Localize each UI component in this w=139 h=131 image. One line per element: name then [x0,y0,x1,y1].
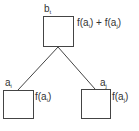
edge-left [18,47,58,90]
parent-node-box [44,17,74,47]
parent-node-name: bt [44,4,51,17]
edge-right [58,47,95,89]
right-child-name: aj [100,78,107,91]
parent-node-value: f(ai) + f(aj) [77,18,121,31]
left-child-node-box [4,91,34,119]
right-child-value: f(aj) [112,92,128,105]
right-child-node-box [82,90,111,119]
left-child-value: f(ai) [35,92,51,105]
left-child-name: ai [5,78,12,91]
